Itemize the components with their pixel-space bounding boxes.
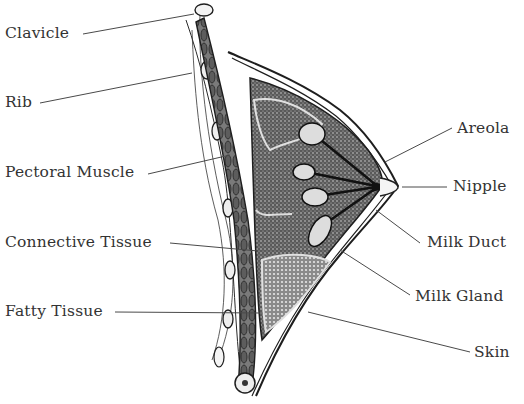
label-rib: Rib xyxy=(5,95,32,111)
label-areola: Areola xyxy=(457,121,510,137)
label-nipple: Nipple xyxy=(453,179,507,195)
label-milk-duct: Milk Duct xyxy=(427,235,506,251)
breast-anatomy-diagram xyxy=(0,0,524,404)
label-skin: Skin xyxy=(474,345,510,361)
label-connective-tissue: Connective Tissue xyxy=(5,235,152,251)
breast-tissue xyxy=(250,78,382,340)
label-fatty-tissue: Fatty Tissue xyxy=(5,304,103,320)
label-clavicle: Clavicle xyxy=(5,26,69,42)
label-milk-gland: Milk Gland xyxy=(415,289,504,305)
label-pectoral-muscle: Pectoral Muscle xyxy=(5,165,134,181)
